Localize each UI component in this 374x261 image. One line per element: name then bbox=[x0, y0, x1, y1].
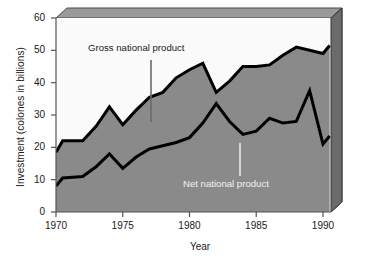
y-tick-label: 30 bbox=[23, 109, 45, 120]
x-tick-label: 1975 bbox=[103, 220, 143, 231]
gross-national-product-annotation: Gross national product bbox=[88, 42, 185, 53]
x-axis-tick-marks bbox=[56, 212, 323, 217]
y-axis-tick-marks bbox=[51, 18, 56, 212]
y-tick-label: 60 bbox=[23, 12, 45, 23]
chart-top-face-3d bbox=[56, 8, 342, 18]
chart-right-edge-shadow bbox=[331, 8, 342, 212]
y-tick-label: 10 bbox=[23, 174, 45, 185]
y-tick-label: 50 bbox=[23, 44, 45, 55]
x-tick-label: 1970 bbox=[36, 220, 76, 231]
x-tick-label: 1990 bbox=[303, 220, 343, 231]
x-tick-label: 1980 bbox=[169, 220, 209, 231]
x-tick-label: 1985 bbox=[236, 220, 276, 231]
y-tick-label: 20 bbox=[23, 141, 45, 152]
chart-figure: Investment (colones in billions) Year 01… bbox=[0, 0, 374, 261]
y-tick-label: 0 bbox=[23, 206, 45, 217]
y-tick-label: 40 bbox=[23, 77, 45, 88]
net-national-product-annotation: Net national product bbox=[183, 178, 269, 189]
x-axis-label: Year bbox=[55, 241, 345, 252]
